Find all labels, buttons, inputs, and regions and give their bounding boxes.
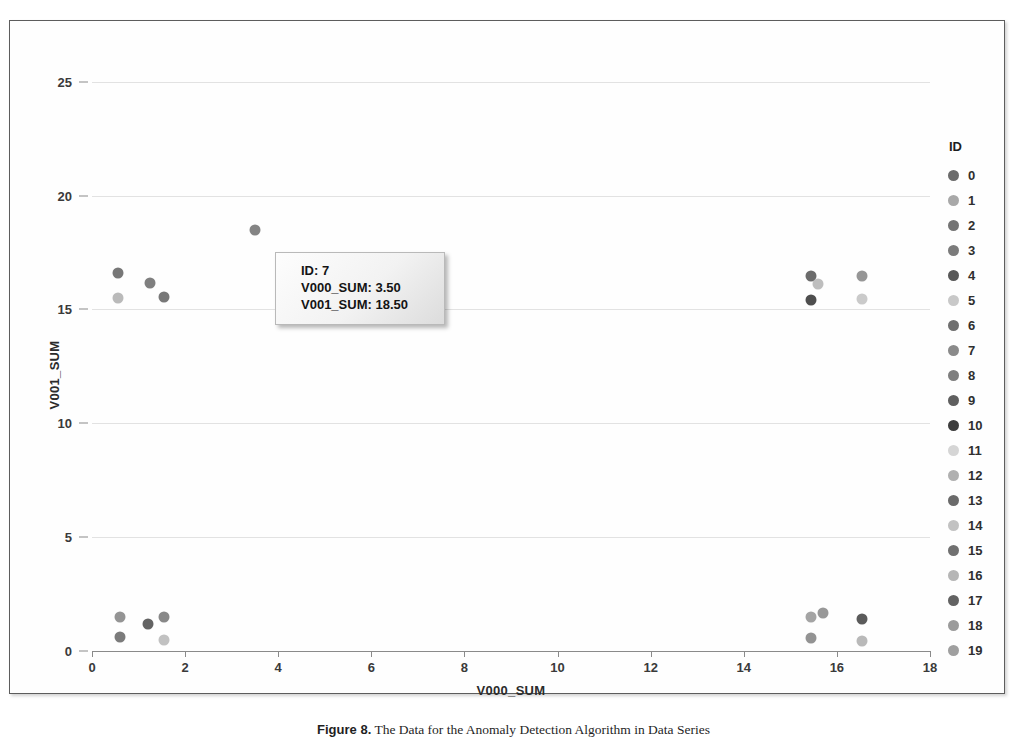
legend-item[interactable]: 10 bbox=[948, 413, 1008, 438]
data-point[interactable] bbox=[249, 224, 260, 235]
tooltip-v000-text: V000_SUM: 3.50 bbox=[301, 280, 401, 295]
y-tick-mark bbox=[79, 537, 88, 538]
x-tick-label: 0 bbox=[88, 660, 95, 675]
x-tick-mark bbox=[185, 651, 186, 657]
y-tick-label: 5 bbox=[38, 530, 72, 545]
figure-caption-text: The Data for the Anomaly Detection Algor… bbox=[374, 722, 710, 737]
legend-item[interactable]: 1 bbox=[948, 188, 1008, 213]
tooltip-row-v000: V000_SUM: 3.50 bbox=[284, 280, 434, 295]
data-point-tooltip: ID: 7 V000_SUM: 3.50 V001_SUM: 18.50 bbox=[275, 252, 445, 325]
x-tick-mark bbox=[558, 651, 559, 657]
legend-item-label: 12 bbox=[968, 468, 982, 483]
y-tick-mark bbox=[79, 651, 88, 652]
legend-item[interactable]: 11 bbox=[948, 438, 1008, 463]
y-tick-mark bbox=[79, 309, 88, 310]
x-tick-mark bbox=[837, 651, 838, 657]
legend-item[interactable]: 12 bbox=[948, 463, 1008, 488]
data-point[interactable] bbox=[806, 633, 817, 644]
x-tick-mark bbox=[371, 651, 372, 657]
scatter-chart[interactable]: 0510152025 024681012141618 V000_SUM V001… bbox=[10, 21, 1004, 693]
legend-color-swatch bbox=[948, 370, 959, 381]
legend-color-swatch bbox=[948, 420, 959, 431]
legend-item[interactable]: 9 bbox=[948, 388, 1008, 413]
figure-caption-label: Figure 8. bbox=[317, 722, 371, 737]
x-tick-mark bbox=[930, 651, 931, 657]
data-point[interactable] bbox=[857, 294, 868, 305]
figure-frame: 0510152025 024681012141618 V000_SUM V001… bbox=[9, 20, 1005, 694]
legend-color-swatch bbox=[948, 170, 959, 181]
legend-color-swatch bbox=[948, 520, 959, 531]
legend-item-label: 17 bbox=[968, 593, 982, 608]
gridline bbox=[92, 82, 930, 83]
x-axis-line bbox=[92, 651, 930, 652]
gridline bbox=[92, 537, 930, 538]
legend-item-label: 9 bbox=[968, 393, 975, 408]
legend-color-swatch bbox=[948, 545, 959, 556]
x-tick-label: 4 bbox=[275, 660, 282, 675]
data-point[interactable] bbox=[813, 279, 824, 290]
legend-item[interactable]: 13 bbox=[948, 488, 1008, 513]
legend-item[interactable]: 3 bbox=[948, 238, 1008, 263]
legend-item[interactable]: 0 bbox=[948, 163, 1008, 188]
x-tick-mark bbox=[744, 651, 745, 657]
data-point[interactable] bbox=[159, 291, 170, 302]
legend-item[interactable]: 16 bbox=[948, 563, 1008, 588]
legend-color-swatch bbox=[948, 470, 959, 481]
x-tick-label: 14 bbox=[737, 660, 751, 675]
data-point[interactable] bbox=[159, 611, 170, 622]
figure-caption: Figure 8. The Data for the Anomaly Detec… bbox=[0, 722, 1027, 738]
legend-item[interactable]: 19 bbox=[948, 638, 1008, 663]
legend-items[interactable]: 012345678910111213141516171819 bbox=[948, 163, 1008, 663]
legend-item[interactable]: 14 bbox=[948, 513, 1008, 538]
data-point[interactable] bbox=[145, 278, 156, 289]
data-point[interactable] bbox=[112, 293, 123, 304]
legend-item-label: 14 bbox=[968, 518, 982, 533]
legend-item-label: 10 bbox=[968, 418, 982, 433]
legend-color-swatch bbox=[948, 245, 959, 256]
data-point[interactable] bbox=[112, 268, 123, 279]
y-tick-label: 0 bbox=[38, 644, 72, 659]
x-axis-title: V000_SUM bbox=[92, 683, 930, 698]
x-tick-mark bbox=[651, 651, 652, 657]
x-tick-mark bbox=[92, 651, 93, 657]
y-tick-label: 10 bbox=[38, 416, 72, 431]
legend-item[interactable]: 2 bbox=[948, 213, 1008, 238]
data-point[interactable] bbox=[806, 295, 817, 306]
legend-item[interactable]: 18 bbox=[948, 613, 1008, 638]
legend-color-swatch bbox=[948, 345, 959, 356]
legend-item[interactable]: 17 bbox=[948, 588, 1008, 613]
data-point[interactable] bbox=[817, 608, 828, 619]
y-tick-mark bbox=[79, 81, 88, 82]
legend-item-label: 7 bbox=[968, 343, 975, 358]
legend-item[interactable]: 5 bbox=[948, 288, 1008, 313]
legend-color-swatch bbox=[948, 395, 959, 406]
legend[interactable]: ID 012345678910111213141516171819 bbox=[948, 139, 1008, 663]
data-point[interactable] bbox=[857, 271, 868, 282]
data-point[interactable] bbox=[114, 632, 125, 643]
legend-item[interactable]: 4 bbox=[948, 263, 1008, 288]
data-point[interactable] bbox=[806, 611, 817, 622]
data-point[interactable] bbox=[114, 611, 125, 622]
legend-item-label: 2 bbox=[968, 218, 975, 233]
legend-color-swatch bbox=[948, 620, 959, 631]
legend-item[interactable]: 6 bbox=[948, 313, 1008, 338]
data-point[interactable] bbox=[159, 634, 170, 645]
x-tick-label: 8 bbox=[461, 660, 468, 675]
legend-item[interactable]: 8 bbox=[948, 363, 1008, 388]
gridline bbox=[92, 423, 930, 424]
data-point[interactable] bbox=[857, 635, 868, 646]
legend-color-swatch bbox=[948, 645, 959, 656]
gridline bbox=[92, 309, 930, 310]
legend-item[interactable]: 15 bbox=[948, 538, 1008, 563]
x-tick-label: 16 bbox=[830, 660, 844, 675]
legend-color-swatch bbox=[948, 195, 959, 206]
legend-item-label: 1 bbox=[968, 193, 975, 208]
x-tick-mark bbox=[278, 651, 279, 657]
legend-item[interactable]: 7 bbox=[948, 338, 1008, 363]
y-tick-label: 25 bbox=[38, 74, 72, 89]
y-axis-title: V001_SUM bbox=[47, 341, 62, 410]
data-point[interactable] bbox=[142, 618, 153, 629]
y-tick-label: 15 bbox=[38, 302, 72, 317]
legend-item-label: 5 bbox=[968, 293, 975, 308]
data-point[interactable] bbox=[857, 614, 868, 625]
